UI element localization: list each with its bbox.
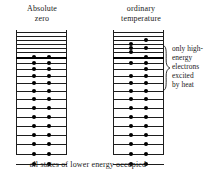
- electron-dot: [144, 97, 149, 102]
- energy-level-line: [16, 40, 67, 41]
- electron-dot: [129, 142, 134, 147]
- energy-level-line: [113, 135, 164, 136]
- electron-dot: [129, 124, 134, 129]
- energy-level-line: [113, 144, 164, 145]
- energy-level-line: [16, 76, 67, 77]
- electron-dot: [47, 106, 52, 111]
- electron-dot: [129, 50, 134, 55]
- energy-level-line: [16, 48, 67, 49]
- electron-dot: [144, 74, 149, 79]
- energy-level-line: [113, 91, 164, 92]
- electron-dot: [32, 124, 37, 129]
- electron-dot: [32, 97, 37, 102]
- energy-level-line: [16, 36, 67, 37]
- electron-dot: [47, 142, 52, 147]
- energy-level-line: [16, 32, 67, 33]
- electron-dot: [129, 61, 134, 66]
- electron-dot: [144, 152, 149, 157]
- electron-dot: [47, 89, 52, 94]
- energy-level-line: [113, 126, 164, 127]
- electron-dot: [144, 89, 149, 94]
- electron-dot: [32, 55, 37, 60]
- electron-dot: [144, 124, 149, 129]
- electron-dot: [47, 74, 52, 79]
- electron-dot: [144, 67, 149, 72]
- electron-dot: [129, 89, 134, 94]
- electron-dot: [129, 97, 134, 102]
- electron-dot: [129, 133, 134, 138]
- electron-dot: [32, 106, 37, 111]
- electron-dot: [32, 115, 37, 120]
- electron-dot: [129, 115, 134, 120]
- electron-dot: [32, 81, 37, 86]
- energy-level-figure: Absolute zero ordinary temperature only …: [0, 0, 218, 178]
- electron-dot: [129, 106, 134, 111]
- energy-level-line: [16, 154, 67, 155]
- electron-dot: [129, 74, 134, 79]
- energy-level-line: [113, 32, 164, 33]
- energy-level-line: [16, 144, 67, 145]
- energy-level-line: [16, 44, 67, 45]
- electron-dot: [47, 97, 52, 102]
- energy-level-line: [113, 108, 164, 109]
- energy-level-line: [113, 40, 164, 41]
- energy-level-line: [16, 63, 67, 64]
- energy-level-line: [113, 76, 164, 77]
- energy-level-line: [16, 57, 67, 59]
- electron-dot: [32, 74, 37, 79]
- electron-dot: [47, 67, 52, 72]
- energy-level-line: [113, 99, 164, 100]
- column-title-absolute-zero: Absolute zero: [6, 4, 78, 24]
- energy-level-line: [16, 108, 67, 109]
- energy-level-line: [113, 69, 164, 70]
- electron-dot: [144, 115, 149, 120]
- electron-dot: [32, 67, 37, 72]
- energy-level-line: [113, 36, 164, 37]
- electron-dot: [144, 133, 149, 138]
- electron-dot: [32, 133, 37, 138]
- energy-ladder-absolute-zero: [16, 30, 67, 154]
- electron-dot: [144, 55, 149, 60]
- electron-dot: [144, 142, 149, 147]
- electron-dot: [144, 81, 149, 86]
- right-curly-brace-icon: [163, 45, 171, 91]
- energy-level-line: [16, 52, 67, 53]
- electron-dot: [32, 89, 37, 94]
- electron-dot: [129, 81, 134, 86]
- energy-level-line: [16, 135, 67, 136]
- energy-level-line: [16, 126, 67, 127]
- electron-dot: [144, 61, 149, 66]
- energy-level-line: [113, 44, 164, 45]
- electron-dot: [144, 38, 149, 43]
- energy-level-line: [113, 63, 164, 64]
- electron-dot: [47, 152, 52, 157]
- annotation-text: only high- energy electrons excited by h…: [172, 44, 218, 89]
- electron-dot: [47, 61, 52, 66]
- energy-level-line: [113, 154, 164, 155]
- figure-caption: all states of lower energy occupied: [0, 160, 176, 170]
- electron-dot: [32, 61, 37, 66]
- energy-level-line: [113, 57, 164, 59]
- electron-dot: [47, 81, 52, 86]
- energy-level-line: [16, 99, 67, 100]
- energy-level-line: [113, 52, 164, 53]
- energy-level-line: [113, 83, 164, 84]
- energy-level-line: [113, 117, 164, 118]
- electron-dot: [144, 106, 149, 111]
- electron-dot: [32, 142, 37, 147]
- energy-level-line: [113, 48, 164, 49]
- energy-level-line: [16, 69, 67, 70]
- energy-level-line: [16, 83, 67, 84]
- energy-ladder-ordinary-temperature: [113, 30, 164, 154]
- electron-dot: [144, 46, 149, 51]
- electron-dot: [47, 124, 52, 129]
- electron-dot: [47, 133, 52, 138]
- column-title-ordinary-temperature: ordinary temperature: [104, 4, 178, 24]
- electron-dot: [32, 152, 37, 157]
- electron-dot: [129, 152, 134, 157]
- energy-level-line: [16, 117, 67, 118]
- energy-level-line: [16, 91, 67, 92]
- electron-dot: [47, 55, 52, 60]
- electron-dot: [47, 115, 52, 120]
